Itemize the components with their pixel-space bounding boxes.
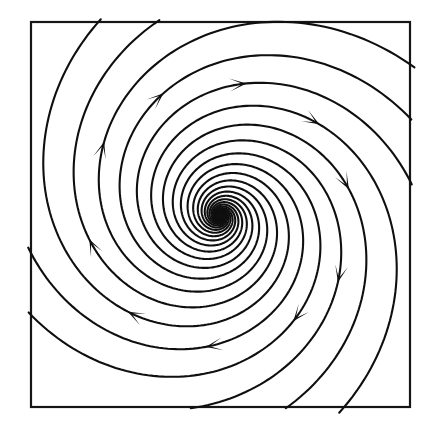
flow-direction-arrowhead xyxy=(335,171,349,189)
flow-direction-arrowhead xyxy=(293,304,309,321)
figure-container xyxy=(0,0,431,436)
trajectory-curve xyxy=(43,19,289,326)
equilibrium-point-dot xyxy=(217,213,223,219)
trajectory-curve xyxy=(151,106,397,413)
flow-direction-arrowhead xyxy=(93,142,105,160)
flow-direction-arrowhead xyxy=(335,264,348,282)
trajectory-curve xyxy=(74,20,277,307)
phase-portrait-svg xyxy=(0,0,431,436)
flow-direction-arrowhead xyxy=(89,239,102,257)
